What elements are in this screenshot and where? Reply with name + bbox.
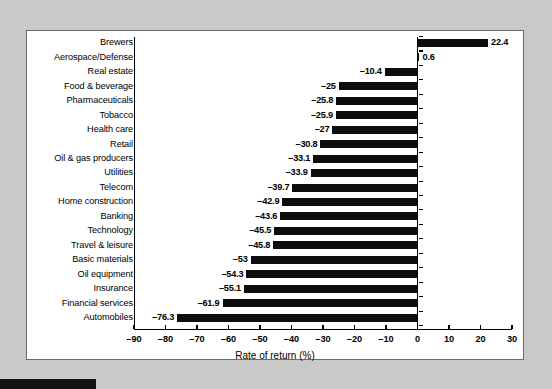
zero-axis-tick: [419, 166, 423, 167]
x-axis-title: Rate of return (%): [27, 351, 523, 361]
zero-axis-tick: [419, 224, 423, 225]
zero-axis-tick: [419, 94, 423, 95]
x-tick-mark: [228, 325, 229, 329]
x-tick-mark: [165, 325, 166, 329]
bar-value-label: 22.4: [491, 38, 508, 47]
x-tick-mark: [385, 325, 386, 329]
bar-value-label: –45.8: [27, 241, 270, 250]
bar-value-label: –33.9: [27, 168, 308, 177]
bar: [311, 169, 418, 177]
zero-axis-tick: [419, 137, 423, 138]
x-tick-mark: [133, 325, 134, 329]
category-label: Aerospace/Defense: [29, 53, 133, 62]
bar-value-label: –54.3: [27, 270, 243, 279]
bar: [320, 140, 417, 148]
zero-axis-tick: [419, 79, 423, 80]
bar-value-label: –25: [27, 82, 336, 91]
bar-value-label: –53: [27, 255, 248, 264]
zero-axis-tick: [419, 209, 423, 210]
zero-axis-tick: [419, 282, 423, 283]
bar: [273, 241, 417, 249]
zero-axis-tick: [419, 195, 423, 196]
bar: [339, 82, 418, 90]
zero-axis-tick: [419, 108, 423, 109]
zero-axis-tick: [419, 36, 423, 37]
bar-value-label: –27: [27, 125, 329, 134]
zero-axis-tick: [419, 123, 423, 124]
x-tick-mark: [196, 325, 197, 329]
bar: [336, 111, 418, 119]
bar-value-label: –43.6: [27, 212, 277, 221]
bar-value-label: –25.8: [27, 96, 333, 105]
bar: [313, 155, 417, 163]
zero-axis-tick: [419, 325, 423, 326]
bar: [418, 53, 420, 61]
chart-panel: BrewersAerospace/DefenseReal estateFood …: [26, 30, 524, 360]
bar-value-label: –45.5: [27, 226, 271, 235]
figure-root: BrewersAerospace/DefenseReal estateFood …: [0, 0, 552, 389]
bar-value-label: –33.1: [27, 154, 310, 163]
x-tick-mark: [259, 325, 260, 329]
zero-axis-tick: [419, 50, 423, 51]
bar: [223, 299, 418, 307]
bar: [332, 126, 417, 134]
bar: [246, 270, 417, 278]
x-tick-mark: [448, 325, 449, 329]
x-axis-line: [134, 329, 512, 330]
bar: [251, 256, 418, 264]
zero-axis-tick: [419, 65, 423, 66]
x-tick-mark: [354, 325, 355, 329]
bar-value-label: –61.9: [27, 299, 220, 308]
zero-axis-tick: [419, 238, 423, 239]
bar-value-label: –30.8: [27, 140, 317, 149]
bar: [336, 97, 417, 105]
zero-axis-tick: [419, 296, 423, 297]
bar: [292, 184, 417, 192]
bar: [418, 39, 489, 47]
x-tick-mark: [511, 325, 512, 329]
x-tick-mark: [480, 325, 481, 329]
page-corner-block: [0, 379, 96, 389]
bar-value-label: –25.9: [27, 111, 333, 120]
bar-value-label: –55.1: [27, 284, 241, 293]
zero-axis-tick: [419, 152, 423, 153]
zero-axis-tick: [419, 311, 423, 312]
x-tick-mark: [291, 325, 292, 329]
category-label: Brewers: [29, 38, 133, 47]
bar: [177, 314, 417, 322]
bar: [274, 227, 417, 235]
x-tick-mark: [322, 325, 323, 329]
bar: [244, 285, 418, 293]
bar-value-label: 0.6: [423, 53, 435, 62]
bar: [280, 212, 417, 220]
bar: [282, 198, 417, 206]
bar-value-label: –39.7: [27, 183, 289, 192]
zero-axis-tick: [419, 181, 423, 182]
bar-value-label: –10.4: [27, 67, 382, 76]
zero-axis-tick: [419, 267, 423, 268]
zero-axis-tick: [419, 253, 423, 254]
plot-area: BrewersAerospace/DefenseReal estateFood …: [27, 31, 523, 359]
x-tick-label: 30: [492, 335, 532, 344]
bar-value-label: –76.3: [27, 313, 174, 322]
bar-value-label: –42.9: [27, 197, 279, 206]
bar: [385, 68, 418, 76]
